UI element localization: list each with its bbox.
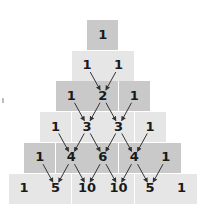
triangle-cell: 1 [72, 51, 103, 81]
triangle-cell: 5 [40, 174, 71, 204]
cell-value: 10 [78, 180, 96, 195]
triangle-cell: 1 [9, 174, 40, 204]
cell-value: 1 [51, 119, 60, 134]
triangle-cell: 3 [103, 112, 134, 142]
triangle-cell: 3 [72, 112, 103, 142]
triangle-cell: 1 [150, 143, 181, 173]
cell-value: 5 [51, 180, 60, 195]
triangle-cell: 1 [135, 112, 166, 142]
cell-value: 1 [145, 119, 154, 134]
triangle-cell: 1 [103, 51, 134, 81]
cell-value: 4 [130, 149, 139, 164]
cell-value: 1 [82, 57, 91, 72]
triangle-cell: 10 [72, 174, 103, 204]
triangle-cell: 1 [40, 112, 71, 142]
stray-mark [2, 98, 4, 103]
cell-value: 1 [177, 180, 186, 195]
cell-value: 3 [114, 119, 123, 134]
cell-value: 5 [145, 180, 154, 195]
cell-value: 4 [67, 149, 76, 164]
triangle-cell: 1 [56, 81, 87, 111]
cell-value: 1 [67, 88, 76, 103]
cell-value: 6 [98, 149, 107, 164]
cell-value: 2 [98, 88, 107, 103]
cell-value: 1 [130, 88, 139, 103]
cell-value: 10 [109, 180, 127, 195]
triangle-cell: 1 [166, 174, 197, 204]
triangle-cell: 1 [119, 81, 150, 111]
triangle-cell: 1 [24, 143, 55, 173]
cell-value: 1 [161, 149, 170, 164]
cell-value: 1 [19, 180, 28, 195]
triangle-cell: 5 [135, 174, 166, 204]
cell-value: 1 [98, 27, 107, 42]
cell-value: 1 [35, 149, 44, 164]
triangle-cell: 6 [87, 143, 118, 173]
cell-value: 1 [114, 57, 123, 72]
triangle-cell: 4 [119, 143, 150, 173]
triangle-cell: 10 [103, 174, 134, 204]
pascal-triangle: 11112113311464115101051 [0, 0, 210, 214]
triangle-cell: 1 [87, 20, 118, 50]
triangle-cell: 4 [56, 143, 87, 173]
cell-value: 3 [82, 119, 91, 134]
triangle-cell: 2 [87, 81, 118, 111]
